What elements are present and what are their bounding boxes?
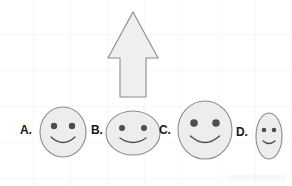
up-arrow <box>108 12 158 97</box>
face-outline-d <box>256 113 282 159</box>
page-smudge <box>228 175 286 184</box>
label-a: A. <box>20 124 32 136</box>
label-c: C. <box>159 124 171 136</box>
right-eye-c <box>212 119 220 127</box>
right-eye-a <box>69 123 75 129</box>
up-arrow-shape <box>108 12 158 97</box>
face-outline-c <box>178 101 232 159</box>
left-eye-b <box>119 125 125 131</box>
left-eye-a <box>51 123 57 129</box>
face-outline-a <box>40 107 86 157</box>
left-eye-d <box>262 128 267 133</box>
face-a <box>40 107 86 157</box>
face-d <box>256 113 282 159</box>
right-eye-d <box>272 128 277 133</box>
face-outline-b <box>106 111 160 155</box>
right-eye-b <box>141 125 147 131</box>
left-eye-c <box>190 119 198 127</box>
diagram-canvas: A. B. C. D. <box>0 0 292 186</box>
label-b: B. <box>91 124 103 136</box>
face-b <box>106 111 160 155</box>
figures-layer <box>0 0 292 186</box>
face-c <box>178 101 232 159</box>
label-d: D. <box>236 126 248 138</box>
